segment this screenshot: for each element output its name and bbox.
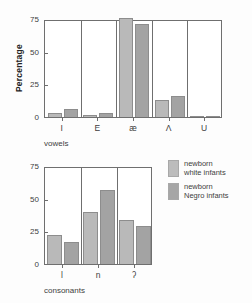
group-separator	[117, 168, 118, 264]
consonants-x-axis-title: consonants	[44, 286, 85, 295]
bar	[64, 242, 79, 264]
y-tick-label: 50	[21, 49, 39, 57]
x-tick-mark	[204, 118, 205, 121]
group-separator	[187, 21, 188, 117]
bar	[64, 109, 78, 117]
y-tick-mark	[44, 85, 48, 86]
vowels-chart: Percentage vowels 0255075IEæΛU	[0, 0, 252, 150]
bar	[119, 220, 134, 264]
x-tick-label: l	[50, 271, 74, 280]
bar	[47, 235, 62, 264]
group-separator	[81, 168, 82, 264]
bar	[171, 96, 185, 117]
x-tick-mark	[98, 265, 99, 268]
legend: newborn white infants newborn Negro infa…	[168, 160, 229, 206]
x-tick-mark	[62, 265, 63, 268]
bar	[155, 100, 169, 117]
y-tick-mark	[44, 200, 48, 201]
figure-page: Percentage vowels 0255075IEæΛU consonant…	[0, 0, 252, 303]
bar	[206, 116, 220, 117]
x-tick-label: Λ	[157, 124, 181, 133]
x-tick-mark	[133, 118, 134, 121]
bar	[136, 226, 151, 264]
legend-swatch-icon-negro	[168, 183, 179, 200]
legend-label-negro: newborn Negro infants	[184, 183, 229, 200]
y-tick-label: 0	[21, 261, 39, 269]
legend-label-white: newborn white infants	[184, 160, 226, 177]
y-tick-mark	[44, 53, 48, 54]
legend-item-negro: newborn Negro infants	[168, 183, 229, 200]
x-tick-label: U	[192, 124, 216, 133]
consonants-plot-area	[44, 167, 152, 265]
bar	[99, 113, 113, 117]
y-tick-label: 25	[21, 228, 39, 236]
x-tick-mark	[134, 265, 135, 268]
x-tick-mark	[62, 118, 63, 121]
x-tick-label: ʔ	[122, 271, 146, 280]
bar	[83, 212, 98, 264]
bar	[48, 113, 62, 117]
x-tick-mark	[97, 118, 98, 121]
vowels-plot-area	[44, 20, 222, 118]
legend-swatch-icon-white	[168, 160, 179, 177]
y-tick-label: 25	[21, 81, 39, 89]
y-tick-label: 50	[21, 196, 39, 204]
legend-item-white: newborn white infants	[168, 160, 229, 177]
y-tick-label: 75	[21, 163, 39, 171]
x-tick-label: E	[85, 124, 109, 133]
x-tick-mark	[169, 118, 170, 121]
bar	[190, 116, 204, 117]
x-tick-label: æ	[121, 124, 145, 133]
bar	[119, 18, 133, 117]
y-tick-label: 0	[21, 114, 39, 122]
x-tick-label: n	[86, 271, 110, 280]
bar	[100, 190, 115, 264]
bar	[135, 24, 149, 117]
group-separator	[116, 21, 117, 117]
x-tick-label: I	[50, 124, 74, 133]
group-separator	[152, 21, 153, 117]
group-separator	[81, 21, 82, 117]
y-tick-mark	[44, 232, 48, 233]
y-tick-label: 75	[21, 16, 39, 24]
vowels-x-axis-title: vowels	[44, 139, 68, 148]
bar	[83, 115, 97, 117]
